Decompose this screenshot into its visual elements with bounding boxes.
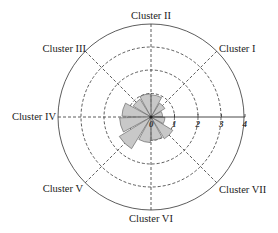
tick-label-2: 2	[195, 119, 201, 129]
tick-label-3: 3	[218, 119, 224, 129]
cluster-label-1: Cluster I	[219, 43, 256, 54]
tick-label-4: 4	[242, 119, 248, 129]
tick-label-1: 1	[172, 119, 177, 129]
cluster-label-5: Cluster V	[43, 183, 84, 194]
cluster-label-7: Cluster VII	[219, 184, 267, 195]
cluster-label-2: Cluster II	[131, 10, 171, 21]
rose-chart: 0 1 2 3 4 Cluster II Cluster I Cluster I…	[0, 0, 278, 233]
cluster-label-4: Cluster IV	[12, 111, 56, 122]
rose-petals	[119, 94, 173, 149]
cluster-label-3: Cluster III	[43, 43, 87, 54]
tick-label-0: 0	[149, 119, 154, 129]
cluster-label-6: Cluster VI	[129, 213, 173, 224]
